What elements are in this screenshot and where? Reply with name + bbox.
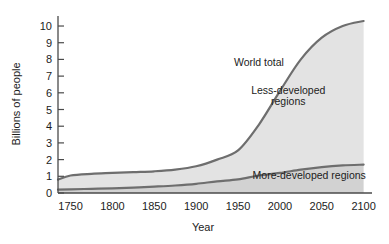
x-tick-label: 1800 [100, 200, 124, 212]
x-axis-title: Year [192, 221, 215, 233]
y-tick-label: 7 [46, 70, 52, 82]
y-tick-label: 2 [46, 154, 52, 166]
y-tick-label: 1 [46, 170, 52, 182]
x-axis: 17501800185019001950200020502100 [58, 193, 376, 212]
x-tick-label: 2100 [351, 200, 375, 212]
y-tick-label: 3 [46, 137, 52, 149]
y-tick-label: 8 [46, 53, 52, 65]
x-tick-label: 2000 [268, 200, 292, 212]
y-axis-title-text: Billions of people [10, 62, 22, 145]
world-total-label: World total [234, 56, 284, 68]
y-tick-label: 9 [46, 37, 52, 49]
chart-canvas: 012345678910 175018001850190019502000205… [0, 0, 389, 244]
x-tick-label: 2050 [310, 200, 334, 212]
x-tick-label: 1900 [184, 200, 208, 212]
y-tick-label: 10 [40, 20, 52, 32]
y-tick-label: 4 [46, 120, 52, 132]
y-axis-title: Billions of people [10, 62, 22, 145]
y-tick-label: 5 [46, 104, 52, 116]
y-tick-label: 6 [46, 87, 52, 99]
x-tick-label: 1750 [58, 200, 82, 212]
y-tick-label: 0 [46, 187, 52, 199]
more-developed-label: More-developed regions [253, 169, 366, 181]
population-projection-chart: 012345678910 175018001850190019502000205… [0, 0, 389, 244]
x-axis-title-text: Year [192, 221, 215, 233]
x-tick-label: 1950 [226, 200, 250, 212]
less-developed-label-line2: regions [271, 95, 305, 107]
x-tick-label: 1850 [142, 200, 166, 212]
